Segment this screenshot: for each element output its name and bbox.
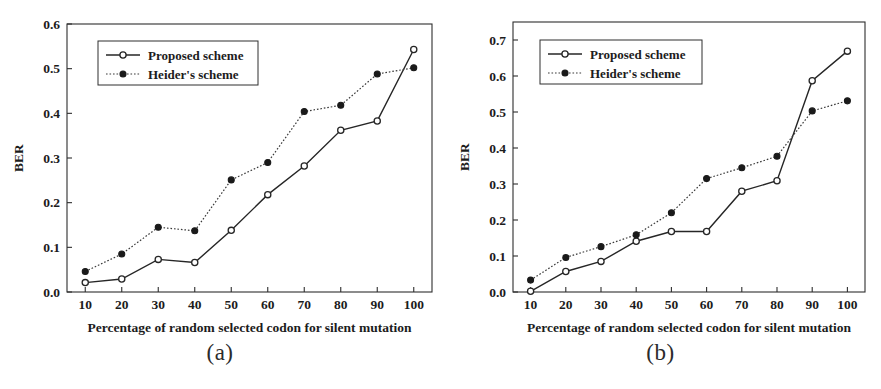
data-point[interactable] (374, 118, 380, 124)
data-point[interactable] (82, 268, 88, 274)
legend-label-0: Proposed scheme (590, 47, 686, 62)
legend-label-1: Heider's scheme (590, 66, 681, 81)
x-tick-label: 20 (559, 297, 573, 312)
x-tick-label: 50 (665, 297, 679, 312)
x-tick-label: 100 (837, 297, 858, 312)
data-point[interactable] (668, 210, 674, 216)
data-point[interactable] (338, 127, 344, 133)
chart-panel-a: 0.00.10.20.30.40.50.61020304050607080901… (0, 0, 440, 389)
y-tick-label: 0.2 (489, 213, 506, 228)
series-line-1 (85, 68, 414, 272)
data-point[interactable] (192, 259, 198, 265)
chart-b-svg: 0.00.10.20.30.40.50.60.71020304050607080… (440, 0, 881, 340)
y-tick-label: 0.0 (43, 285, 60, 300)
x-tick-label: 40 (629, 297, 643, 312)
x-tick-label: 70 (735, 297, 749, 312)
y-tick-label: 0.7 (489, 33, 506, 48)
data-point[interactable] (668, 228, 674, 234)
figure-container: 0.00.10.20.30.40.50.61020304050607080901… (0, 0, 881, 389)
data-point[interactable] (774, 178, 780, 184)
data-point[interactable] (301, 163, 307, 169)
x-tick-label: 90 (805, 297, 819, 312)
y-tick-label: 0.6 (489, 69, 506, 84)
y-tick-label: 0.5 (489, 105, 506, 120)
y-tick-label: 0.3 (43, 151, 60, 166)
y-tick-label: 0.4 (43, 106, 60, 121)
data-point[interactable] (155, 224, 161, 230)
chart-a-svg: 0.00.10.20.30.40.50.61020304050607080901… (0, 0, 440, 340)
chart-panel-b: 0.00.10.20.30.40.50.60.71020304050607080… (440, 0, 881, 389)
series-line-0 (531, 51, 848, 291)
data-point[interactable] (411, 65, 417, 71)
x-tick-label: 10 (524, 297, 538, 312)
x-tick-label: 10 (79, 297, 93, 312)
legend-marker-filled-circle-icon (120, 71, 126, 77)
x-tick-label: 20 (115, 297, 129, 312)
y-tick-label: 0.5 (43, 61, 60, 76)
data-point[interactable] (563, 268, 569, 274)
y-tick-label: 0.0 (489, 285, 506, 300)
data-point[interactable] (633, 232, 639, 238)
data-point[interactable] (192, 228, 198, 234)
legend-marker-open-circle-icon (562, 51, 568, 57)
data-point[interactable] (774, 153, 780, 159)
data-point[interactable] (338, 102, 344, 108)
y-tick-label: 0.3 (489, 177, 506, 192)
x-axis-title: Percentage of random selected codon for … (88, 320, 412, 335)
data-point[interactable] (155, 256, 161, 262)
x-tick-label: 90 (371, 297, 385, 312)
legend-label-0: Proposed scheme (148, 48, 244, 63)
data-point[interactable] (119, 276, 125, 282)
data-point[interactable] (739, 165, 745, 171)
data-point[interactable] (809, 108, 815, 114)
data-point[interactable] (633, 238, 639, 244)
y-tick-label: 0.4 (489, 141, 506, 156)
data-point[interactable] (411, 46, 417, 52)
data-point[interactable] (228, 177, 234, 183)
x-axis-title: Percentage of random selected codon for … (527, 320, 851, 335)
x-tick-label: 60 (261, 297, 275, 312)
x-tick-label: 80 (334, 297, 348, 312)
x-tick-label: 30 (152, 297, 166, 312)
data-point[interactable] (528, 288, 534, 294)
data-point[interactable] (844, 98, 850, 104)
data-point[interactable] (265, 192, 271, 198)
legend-marker-open-circle-icon (120, 52, 126, 58)
caption-a: (a) (0, 340, 440, 366)
data-point[interactable] (119, 251, 125, 257)
data-point[interactable] (598, 244, 604, 250)
data-point[interactable] (301, 109, 307, 115)
data-point[interactable] (809, 78, 815, 84)
data-point[interactable] (374, 71, 380, 77)
x-tick-label: 80 (770, 297, 784, 312)
x-tick-label: 100 (404, 297, 425, 312)
data-point[interactable] (598, 258, 604, 264)
legend-marker-filled-circle-icon (562, 70, 568, 76)
y-tick-label: 0.6 (43, 17, 60, 32)
y-axis-title: BER (457, 143, 472, 171)
caption-b: (b) (440, 340, 881, 366)
y-tick-label: 0.1 (43, 240, 60, 255)
data-point[interactable] (704, 176, 710, 182)
x-tick-label: 60 (700, 297, 714, 312)
data-point[interactable] (228, 227, 234, 233)
series-line-1 (531, 101, 848, 280)
y-axis-title: BER (11, 144, 26, 172)
legend-label-1: Heider's scheme (148, 67, 239, 82)
data-point[interactable] (528, 277, 534, 283)
data-point[interactable] (704, 228, 710, 234)
x-tick-label: 70 (298, 297, 312, 312)
data-point[interactable] (563, 254, 569, 260)
x-tick-label: 30 (594, 297, 608, 312)
x-tick-label: 40 (188, 297, 202, 312)
data-point[interactable] (739, 188, 745, 194)
data-point[interactable] (82, 280, 88, 286)
data-point[interactable] (844, 48, 850, 54)
x-tick-label: 50 (225, 297, 239, 312)
y-tick-label: 0.1 (489, 249, 506, 264)
y-tick-label: 0.2 (43, 195, 60, 210)
data-point[interactable] (265, 159, 271, 165)
